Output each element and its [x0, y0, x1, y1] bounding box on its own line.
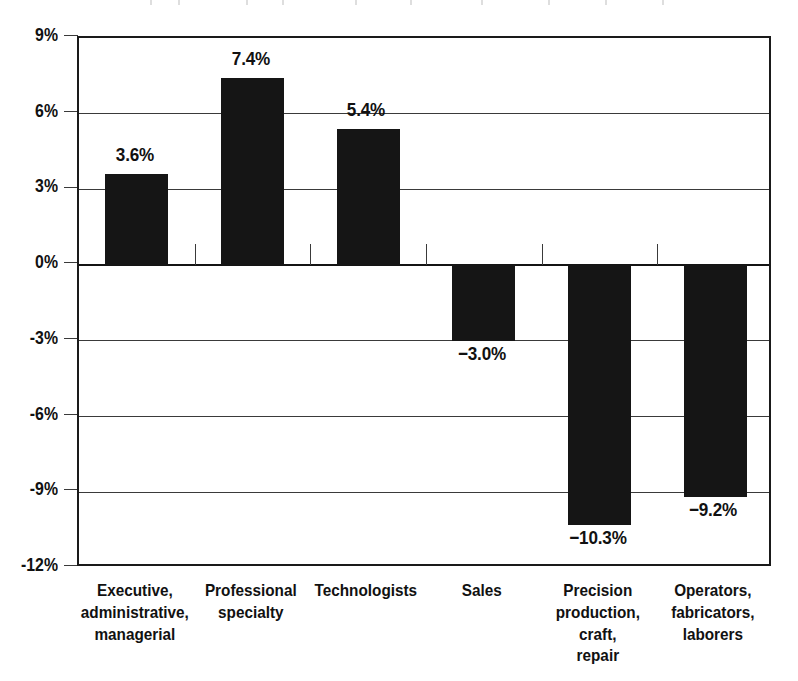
x-axis-category-label-line: Operators,	[650, 580, 776, 602]
x-axis-category-label: Operators,fabricators,laborers	[650, 580, 776, 645]
x-axis-category-label-line: fabricators,	[650, 602, 776, 624]
x-axis-category-label: Sales	[419, 580, 545, 602]
x-axis-category-label: Technologists	[303, 580, 429, 602]
y-axis-tick-mark	[64, 111, 78, 112]
y-axis-tick-mark	[64, 414, 78, 415]
y-axis-tick-label: -3%	[7, 328, 58, 349]
y-axis-tick-label: 9%	[7, 25, 58, 46]
zero-baseline	[79, 264, 769, 266]
x-axis-category-label-line: Technologists	[303, 580, 429, 602]
x-axis-category-label: Professionalspecialty	[188, 580, 314, 624]
category-boundary-tick	[195, 244, 196, 265]
y-axis-tick-mark	[64, 262, 78, 263]
bar-value-label: −9.2%	[650, 499, 776, 521]
category-boundary-tick	[310, 244, 311, 265]
x-axis-category-label: Precisionproduction, craft,repair	[535, 580, 661, 667]
x-axis-category-label-line: administrative,	[72, 602, 198, 624]
bar-value-label: −10.3%	[535, 527, 661, 549]
bar	[684, 265, 747, 497]
x-axis-category-label-line: Professional	[188, 580, 314, 602]
x-axis-category-label-line: specialty	[188, 602, 314, 624]
x-axis-category-label-line: managerial	[72, 624, 198, 646]
y-axis-tick-label: -9%	[7, 479, 58, 500]
x-axis-category-label-line: repair	[535, 645, 661, 667]
category-boundary-tick	[426, 244, 427, 265]
y-axis-tick-mark	[64, 187, 78, 188]
y-axis-tick-mark	[64, 489, 78, 490]
bar	[337, 129, 400, 265]
gridline	[79, 340, 769, 341]
x-axis-category-label-line: Executive,	[72, 580, 198, 602]
bar	[221, 78, 284, 265]
y-axis-tick-mark	[64, 35, 78, 36]
x-axis-category-label-line: Precision	[535, 580, 661, 602]
x-axis-category-label: Executive,administrative,managerial	[72, 580, 198, 645]
y-axis-tick-label: -12%	[7, 555, 58, 576]
bar	[568, 265, 631, 525]
x-axis-category-label-line: laborers	[650, 624, 776, 646]
bar-value-label: 7.4%	[188, 48, 314, 70]
x-axis-category-label-line: production, craft,	[535, 602, 661, 646]
bar-value-label: 5.4%	[303, 99, 429, 121]
gridline	[79, 492, 769, 493]
x-axis-category-label-line: Sales	[419, 580, 545, 602]
y-axis-tick-mark	[64, 565, 78, 566]
bar-value-label: 3.6%	[72, 144, 198, 166]
y-axis-tick-label: 6%	[7, 101, 58, 122]
bar	[105, 174, 168, 265]
bar-chart-figure: 9%6%3%0%-3%-6%-9%-12% Executive,administ…	[0, 0, 798, 681]
gridline	[79, 189, 769, 190]
gridline	[79, 416, 769, 417]
y-axis-tick-label: 0%	[7, 252, 58, 273]
y-axis-tick-label: -6%	[7, 404, 58, 425]
y-axis-tick-mark	[64, 338, 78, 339]
category-boundary-tick	[542, 244, 543, 265]
y-axis-tick-label: 3%	[7, 176, 58, 197]
bar-value-label: −3.0%	[419, 343, 545, 365]
scan-artifact	[150, 0, 670, 7]
bar	[452, 265, 515, 341]
category-boundary-tick	[657, 244, 658, 265]
